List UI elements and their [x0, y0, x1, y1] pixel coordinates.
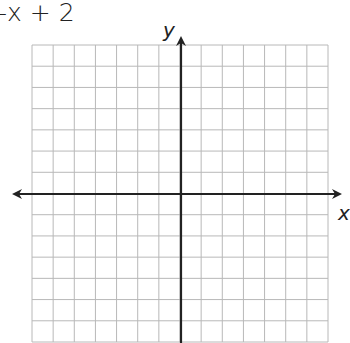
coordinate-grid: x y — [0, 0, 350, 343]
x-axis — [12, 189, 342, 199]
y-axis — [176, 36, 186, 343]
x-axis-label: x — [337, 201, 350, 225]
y-axis-label: y — [162, 18, 176, 42]
